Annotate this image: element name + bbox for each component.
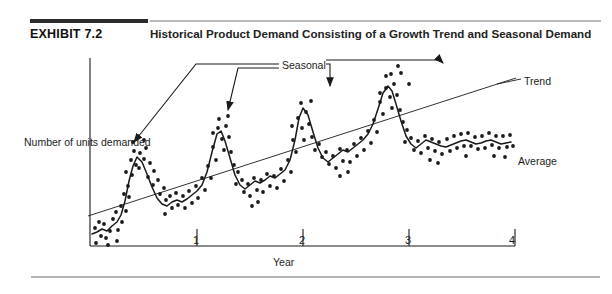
seasonal-arrow-2 (228, 68, 279, 110)
demand-chart-plot (0, 0, 612, 294)
footer-rule (31, 276, 600, 278)
demand-curve (92, 86, 511, 234)
demand-scatter-points (93, 64, 515, 247)
trend-leader (497, 79, 521, 84)
seasonal-arrow-4 (326, 60, 443, 63)
seasonal-arrows (134, 60, 443, 142)
x-axis-ticks (197, 229, 515, 246)
seasonal-arrow-1 (134, 64, 279, 142)
seasonal-arrow-3 (326, 64, 330, 86)
trend-line (88, 78, 516, 216)
